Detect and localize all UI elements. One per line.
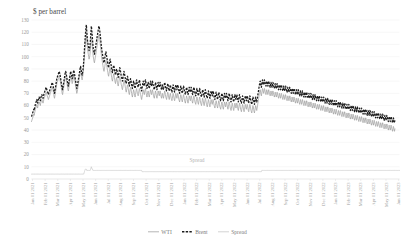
chart-canvas: 0102030405060708090100110120130Jan 01 20… [0, 0, 403, 243]
x-axis-tick-label: Jan 01 2021 [30, 182, 35, 205]
spread-annotation: Spread [190, 157, 205, 163]
x-axis: Jan 01 2021Feb 01 2021Mar 01 2021Apr 01 … [30, 179, 401, 207]
x-axis-tick-label: May 01 2021 [81, 182, 86, 207]
x-axis-tick-label: May 01 2023 [384, 182, 389, 207]
y-axis-tick-label: 100 [21, 54, 29, 60]
chart-legend: WTIBrentSpread [148, 229, 247, 235]
y-axis-tick-label: 50 [24, 115, 30, 121]
y-axis-tick-label: 130 [21, 17, 29, 23]
legend-label-spread[interactable]: Spread [231, 229, 247, 235]
x-axis-tick-label: Feb 01 2022 [194, 182, 199, 206]
x-axis-tick-label: Sep 01 2021 [131, 182, 136, 206]
x-axis-tick-label: Nov 01 2021 [156, 182, 161, 207]
x-axis-tick-label: Jun 01 2022 [245, 182, 250, 205]
x-axis-tick-label: Apr 01 2023 [371, 182, 376, 206]
y-axis-tick-label: 30 [24, 139, 30, 145]
y-axis-tick-label: 40 [24, 127, 30, 133]
x-axis-tick-label: Jun 01 2021 [93, 182, 98, 205]
x-axis-tick-label: Mar 01 2023 [358, 182, 363, 206]
x-axis-tick-label: Apr 01 2021 [68, 182, 73, 206]
x-axis-tick-label: Mar 01 2022 [207, 182, 212, 206]
x-axis-tick-label: May 01 2022 [232, 182, 237, 207]
legend-label-brent[interactable]: Brent [195, 229, 208, 235]
x-axis-tick-label: Jan 01 2022 [182, 182, 187, 205]
y-axis-tick-label: 80 [24, 78, 30, 84]
x-axis-tick-label: Dec 01 2022 [321, 182, 326, 206]
x-axis-tick-label: Jul 01 2021 [106, 182, 111, 204]
x-axis-tick-label: Jan 01 2023 [333, 182, 338, 205]
legend-label-wti[interactable]: WTI [161, 229, 172, 235]
y-axis-tick-label: 70 [24, 90, 30, 96]
y-axis-tick-label: 90 [24, 66, 30, 72]
x-axis-tick-label: Jul 01 2022 [257, 182, 262, 204]
x-axis-tick-label: Aug 01 2022 [270, 182, 275, 207]
series-line-spread [32, 167, 400, 174]
x-axis-tick-label: Oct 01 2021 [144, 182, 149, 205]
y-gridlines: 0102030405060708090100110120130 [21, 17, 399, 182]
x-axis-tick-label: Nov 01 2022 [308, 182, 313, 207]
oil-price-chart: 0102030405060708090100110120130Jan 01 20… [0, 0, 403, 243]
series-line-wti [32, 35, 395, 132]
y-axis-tick-label: 60 [24, 102, 30, 108]
chart-title: $ per barrel [33, 8, 66, 16]
x-axis-tick-label: Sep 01 2022 [283, 182, 288, 206]
x-axis-tick-label: Oct 01 2022 [295, 182, 300, 205]
x-axis-tick-label: Aug 01 2021 [118, 182, 123, 207]
y-axis-tick-label: 0 [26, 176, 29, 182]
y-axis-tick-label: 10 [24, 164, 30, 170]
x-axis-tick-label: Mar 01 2021 [55, 182, 60, 206]
x-axis-tick-label: Apr 01 2022 [219, 182, 224, 206]
x-axis-tick-label: Feb 01 2021 [43, 182, 48, 206]
y-axis-tick-label: 120 [21, 29, 29, 35]
y-axis-tick-label: 20 [24, 151, 30, 157]
y-axis-tick-label: 110 [21, 41, 29, 47]
x-axis-tick-label: Dec 01 2021 [169, 182, 174, 206]
x-axis-tick-label: Feb 01 2023 [346, 182, 351, 206]
x-axis-tick-label: Jun 01 2023 [396, 182, 401, 205]
